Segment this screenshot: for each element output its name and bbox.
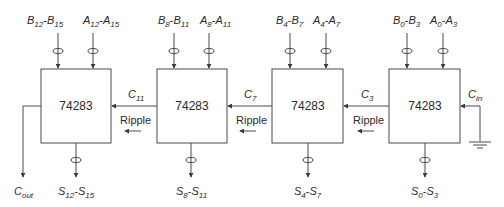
sum-output-label: S8-S11: [176, 185, 207, 200]
carry-out-arrow: [23, 106, 41, 177]
carry-in-arrow: [461, 106, 480, 141]
a-input-label: A4-A7: [312, 14, 341, 29]
b-input-label: B8-B11: [158, 14, 189, 29]
b-input-label: B4-B7: [276, 14, 304, 29]
carry-label: C3: [361, 88, 374, 103]
chip-label: 74283: [175, 99, 209, 113]
b-input-label: B12-B15: [27, 14, 64, 29]
chip-label: 74283: [291, 99, 325, 113]
ripple-label: Ripple: [353, 114, 384, 126]
sum-output-label: S12-S15: [58, 185, 95, 200]
b-input-label: B0-B3: [393, 14, 421, 29]
a-input-label: A8-A11: [199, 14, 231, 29]
a-input-label: A12-A15: [82, 14, 120, 29]
adder-stage-12-15: B12-B15 A12-A15 74283 S12-S15 Cout: [14, 14, 120, 200]
ripple-label: Ripple: [236, 114, 267, 126]
adder-stage-8-11: B8-B11 A8-A11 74283 S8-S11: [157, 14, 231, 200]
a-input-label: A0-A3: [429, 14, 458, 29]
adder-stage-0-3: B0-B3 A0-A3 74283 S0-S3 Cin: [389, 14, 491, 200]
carry-label: C7: [244, 88, 257, 103]
sum-output-label: S4-S7: [294, 185, 322, 200]
ground-icon: [469, 142, 491, 148]
adder-stage-4-7: B4-B7 A4-A7 74283 S4-S7: [272, 14, 343, 200]
carry-link-c7: C7 Ripple: [228, 88, 272, 131]
carry-link-c11: C11 Ripple: [112, 88, 157, 131]
carry-out-label: Cout: [14, 185, 34, 200]
sum-output-label: S0-S3: [411, 185, 439, 200]
ripple-label: Ripple: [120, 114, 151, 126]
chip-label: 74283: [408, 99, 442, 113]
ripple-carry-adder-diagram: B12-B15 A12-A15 74283 S12-S15 Cout C11 R…: [0, 0, 504, 207]
carry-in-label: Cin: [468, 88, 483, 103]
carry-label: C11: [128, 88, 144, 103]
carry-link-c3: C3 Ripple: [344, 88, 389, 131]
chip-label: 74283: [59, 99, 93, 113]
